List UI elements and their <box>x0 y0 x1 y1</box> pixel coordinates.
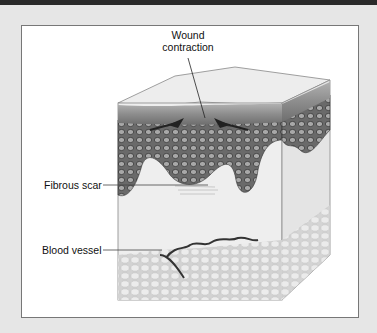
wound-label-line1: Wound <box>150 29 226 41</box>
wound-contraction-label: Wound contraction <box>150 29 226 53</box>
blood-vessel-label: Blood vessel <box>42 244 102 256</box>
wound-label-line2: contraction <box>150 41 226 53</box>
fibrous-scar-label: Fibrous scar <box>44 179 102 191</box>
epidermis-layer <box>118 104 282 125</box>
